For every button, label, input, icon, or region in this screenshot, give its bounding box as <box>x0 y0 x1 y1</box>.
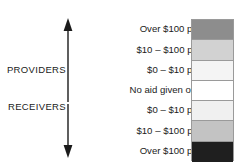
receivers-arrow-icon <box>64 104 73 158</box>
legend-swatch <box>192 142 233 162</box>
legend-swatch-column <box>191 19 234 161</box>
direction-arrows <box>58 16 78 160</box>
group-label-providers: PROVIDERS <box>7 64 66 75</box>
legend-swatch <box>192 81 233 101</box>
legend-axis-column: PROVIDERS RECEIVERS <box>0 0 80 165</box>
legend-swatch <box>192 61 233 81</box>
legend-swatch <box>192 20 233 40</box>
providers-arrow-icon <box>64 18 73 102</box>
legend-swatch <box>192 40 233 60</box>
legend-swatch <box>192 101 233 121</box>
group-label-receivers: RECEIVERS <box>8 101 66 112</box>
legend-swatch <box>192 121 233 141</box>
map-legend: PROVIDERS RECEIVERS Over $100 per person… <box>0 0 241 165</box>
